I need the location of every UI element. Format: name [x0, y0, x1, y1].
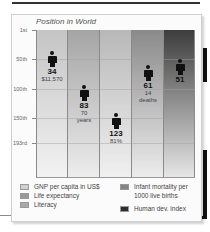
person-icon	[112, 113, 121, 129]
tick-label-100th: 100th	[13, 86, 27, 92]
column-literacy	[100, 30, 132, 177]
legend-swatch	[120, 206, 129, 212]
rank-detail: $11,570	[36, 76, 68, 83]
legend-swatch	[20, 202, 29, 208]
person-icon	[48, 51, 57, 67]
legend-swatch	[20, 184, 29, 190]
gridline-100th	[36, 89, 195, 90]
tick-label-193rd: 193rd	[13, 140, 27, 146]
legend-label: Life expectancy	[34, 192, 79, 200]
rank-detail-unit: years	[68, 117, 100, 124]
column-human-dev-index	[164, 30, 195, 177]
side-bar-upper	[203, 48, 207, 82]
column-infant-mortality	[132, 30, 164, 177]
legend-label: Infant mortality per	[134, 183, 188, 191]
tick-mark-193rd	[32, 143, 36, 144]
tick-mark-100th	[32, 89, 36, 90]
legend-label: 1000 live births	[134, 192, 178, 200]
marker-gnp: 34 $11,570	[36, 51, 68, 83]
marker-literacy: 123 81%	[100, 113, 132, 145]
legend-label: Literacy	[34, 201, 57, 209]
tick-label-1st: 1st	[20, 27, 27, 33]
legend-label: Human dev. index	[134, 205, 186, 213]
marker-life-expectancy: 83 70 years	[68, 85, 100, 123]
rank-value: 34	[36, 68, 68, 76]
marker-infant-mortality: 61 14 deaths	[132, 65, 164, 103]
tick-label-150th: 150th	[13, 115, 27, 121]
top-rule	[12, 2, 200, 4]
person-icon	[80, 85, 89, 101]
rank-detail: 81%	[100, 138, 132, 145]
tick-mark-1st	[32, 30, 36, 31]
legend-swatch	[20, 193, 29, 199]
side-bar-lower	[203, 150, 207, 218]
legend-swatch	[120, 184, 129, 190]
rank-value: 83	[68, 102, 100, 110]
plot-area: 1st 50th 100th 150th 193rd 34 $11,570 83…	[36, 30, 195, 178]
chart-panel: Position in World 1st 50th 100th 150th 1…	[11, 14, 202, 222]
chart-title: Position in World	[36, 17, 96, 26]
person-icon	[144, 65, 153, 81]
tick-mark-150th	[32, 118, 36, 119]
person-icon	[176, 59, 185, 75]
marker-human-dev-index: 51	[164, 59, 196, 84]
rank-value: 61	[132, 82, 164, 90]
rank-value: 51	[164, 76, 196, 84]
legend-label: GNP per capita in US$	[34, 183, 100, 191]
rank-value: 123	[100, 130, 132, 138]
tick-label-50th: 50th	[16, 56, 27, 62]
rank-detail-unit: deaths	[132, 97, 164, 104]
